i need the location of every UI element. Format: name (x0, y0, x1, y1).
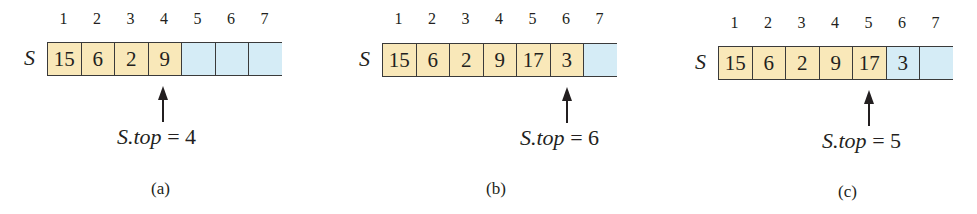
index-7: 7 (919, 14, 952, 32)
cell-3: 2 (785, 47, 819, 79)
array-name: S (695, 49, 706, 75)
index-1: 1 (718, 14, 751, 32)
cell-1: 15 (718, 47, 752, 79)
cell-6: 3 (886, 47, 920, 79)
stack-array: 15 6 2 9 17 3 (718, 46, 953, 80)
index-3: 3 (785, 14, 818, 32)
top-label: S.top = 5 (822, 128, 901, 154)
index-6: 6 (886, 14, 919, 32)
panel-c: 1 2 3 4 5 6 7 S 15 6 2 9 17 3 S.top = 5 … (0, 0, 977, 214)
index-2: 2 (752, 14, 785, 32)
caption: (c) (838, 182, 857, 202)
index-5: 5 (852, 14, 885, 32)
cell-4: 9 (819, 47, 853, 79)
cell-5: 17 (852, 47, 886, 79)
index-4: 4 (819, 14, 852, 32)
cell-7 (919, 47, 953, 79)
cell-2: 6 (752, 47, 786, 79)
